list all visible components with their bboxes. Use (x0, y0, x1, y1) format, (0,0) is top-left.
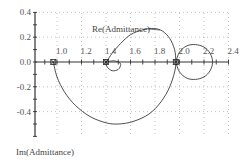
locus-curve (53, 28, 175, 124)
y-tick-label: 0.2 (20, 32, 31, 42)
y-tick-label: -0.4 (17, 107, 32, 117)
x-tick-label: 2.0 (179, 46, 191, 56)
y-tick-label: 0.0 (20, 57, 32, 67)
admittance-chart: 1.01.21.41.61.82.02.22.40.40.20.0-0.2-0.… (0, 0, 245, 162)
x-tick-label: 1.4 (105, 46, 117, 56)
x-tick-label: 1.2 (81, 46, 92, 56)
x-tick-label: 2.2 (203, 46, 214, 56)
x-tick-label: 1.0 (56, 46, 68, 56)
x-axis-title: Re(Admittance) (92, 24, 150, 34)
data-curves (53, 28, 212, 124)
x-tick-label: 1.6 (130, 46, 142, 56)
y-tick-label: 0.4 (20, 7, 32, 17)
x-tick-label: 1.8 (154, 46, 166, 56)
x-tick-label: 2.4 (228, 46, 240, 56)
y-axis-title: Im(Admittance) (16, 147, 74, 157)
y-tick-label: -0.2 (17, 82, 31, 92)
